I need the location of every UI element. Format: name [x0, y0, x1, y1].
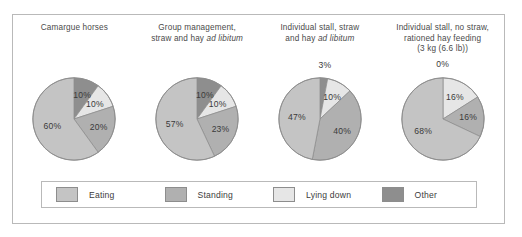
- pie-panel-2-title: Group management, straw and hay ad libit…: [141, 23, 253, 44]
- pie-panel-4: Individual stall, no straw, rationed hay…: [381, 15, 504, 175]
- pie-panel-1: Camargue horses 10% 10%: [13, 15, 136, 175]
- pie-chart-4-area: 0% 16% 16% 68%: [384, 59, 502, 169]
- pie-chart-1-label-lying-down: 10%: [86, 99, 104, 109]
- pie-chart-3-label-eating: 47%: [288, 112, 306, 122]
- pie-chart-4-label-eating: 68%: [414, 126, 432, 136]
- pie-chart-3-label-lying-down: 10%: [323, 92, 341, 102]
- legend-label-lying-down: Lying down: [306, 190, 351, 200]
- legend-label-other: Other: [415, 190, 438, 200]
- figure-frame: Camargue horses 10% 10%: [12, 14, 505, 224]
- pie-panel-3-title-line1: Individual stall, straw: [280, 23, 359, 32]
- pie-chart-4-label-other: 0%: [436, 59, 449, 69]
- pie-chart-2-label-eating: 57%: [166, 119, 184, 129]
- pie-panel-2-title-line1: Group management,: [158, 23, 236, 32]
- pie-panel-4-title-line3: (3 kg (6.6 lb)): [417, 44, 468, 53]
- pie-chart-3-label-other: 3%: [319, 60, 332, 70]
- pie-panel-3-title-line2-italic: ad libitum: [318, 34, 355, 43]
- pie-chart-2-label-standing: 23%: [212, 124, 230, 134]
- pie-panel-2: Group management, straw and hay ad libit…: [136, 15, 259, 175]
- pie-panel-3: Individual stall, straw and hay ad libit…: [259, 15, 382, 175]
- pie-panel-3-title-line2: and hay: [285, 34, 318, 43]
- legend-swatch-lying-down: [273, 187, 295, 202]
- pie-panel-4-title-line2: rationed hay feeding: [404, 34, 481, 43]
- pie-panel-4-title-line1: Individual stall, no straw,: [396, 23, 489, 32]
- pie-panel-2-title-line2: straw and hay: [151, 34, 206, 43]
- legend-item-lying-down: Lying down: [259, 187, 368, 202]
- pie-panel-1-title-line1: Camargue horses: [41, 23, 108, 32]
- legend-label-standing: Standing: [198, 190, 234, 200]
- pie-chart-1-label-standing: 20%: [90, 122, 108, 132]
- pie-panel-3-title: Individual stall, straw and hay ad libit…: [264, 23, 376, 44]
- pie-chart-1-label-eating: 60%: [44, 121, 62, 131]
- pie-chart-2-area: 10% 10% 23% 57%: [138, 59, 256, 169]
- legend-swatch-eating: [56, 187, 78, 202]
- pie-chart-4-label-standing: 16%: [459, 112, 477, 122]
- legend-item-other: Other: [368, 187, 477, 202]
- pie-panel-1-title: Camargue horses: [18, 23, 130, 34]
- pie-chart-4-label-lying-down: 16%: [446, 92, 464, 102]
- chart-legend: Eating Standing Lying down Other: [41, 181, 477, 208]
- pie-panel-4-title: Individual stall, no straw, rationed hay…: [387, 23, 499, 55]
- legend-label-eating: Eating: [89, 190, 115, 200]
- pie-panels-row: Camargue horses 10% 10%: [13, 15, 504, 175]
- legend-swatch-standing: [165, 187, 187, 202]
- pie-chart-3-area: 3% 10% 40% 47%: [261, 59, 379, 169]
- pie-chart-2-label-lying-down: 10%: [209, 99, 227, 109]
- legend-swatch-other: [382, 187, 404, 202]
- pie-chart-3-label-standing: 40%: [333, 126, 351, 136]
- legend-item-standing: Standing: [151, 187, 260, 202]
- legend-item-eating: Eating: [42, 187, 151, 202]
- pie-panel-2-title-line2-italic: ad libitum: [207, 34, 244, 43]
- pie-chart-1-area: 10% 10% 20% 60%: [15, 59, 133, 169]
